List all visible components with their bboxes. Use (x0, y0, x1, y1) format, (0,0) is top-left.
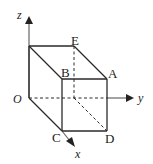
edge-top-left (29, 46, 62, 79)
vertex-label-E: E (71, 33, 79, 48)
y-axis-arrow-icon (126, 94, 134, 102)
x-axis-label: x (74, 147, 81, 161)
edge-O-C (29, 98, 62, 131)
vertex-label-D: D (105, 131, 114, 146)
z-axis-label: z (16, 8, 22, 22)
cuboid-diagram: z y x O E B A C D (0, 0, 153, 164)
y-axis-label: y (137, 91, 144, 105)
vertex-label-C: C (52, 130, 61, 145)
z-axis-arrow-icon (25, 16, 33, 24)
vertex-label-A: A (108, 66, 118, 81)
origin-label: O (13, 92, 22, 106)
edge-hidden-to-D (74, 98, 107, 131)
edge-E-A (74, 46, 107, 79)
vertex-label-B: B (61, 65, 70, 80)
